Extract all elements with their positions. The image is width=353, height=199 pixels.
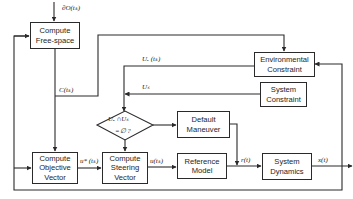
system-constraint-label: System Constraint [266,85,301,104]
reference-model-block: Reference Model [177,153,227,179]
default-maneuver-label: Default Maneuver [187,115,221,134]
environmental-constraint-label: Environmental Constraint [260,55,309,74]
compute-objective-vector-label: Compute Objective Vector [39,154,71,183]
decision-condition-line1: Uₑ ∩Uₛ [108,115,129,123]
decision-condition-line2: =∅ ? [115,127,131,135]
signal-sys-out: Uₛ [142,83,150,91]
reference-model-label: Reference Model [184,157,219,176]
signal-objective-out: u* (tₖ) [80,157,98,165]
signal-free-space-out: C(tₖ) [59,86,73,94]
system-dynamics-label: System Dynamics [270,157,303,176]
signal-env-out: Uₑ (tₖ) [142,55,160,63]
signal-steering-out: u(tₖ) [150,157,163,165]
environmental-constraint-block: Environmental Constraint [254,52,315,77]
compute-steering-vector-label: Compute Steering Vector [110,154,141,183]
signal-state-out: x(t) [318,156,328,164]
system-constraint-block: System Constraint [260,82,307,107]
compute-free-space-label: Compute Free-space [36,26,74,45]
compute-free-space-block: Compute Free-space [30,22,80,49]
block-diagram: Compute Free-space Environmental Constra… [0,0,353,199]
signal-input-top: ∂O(tₖ) [62,4,80,12]
signal-reference-out: r(t) [241,156,250,164]
default-maneuver-block: Default Maneuver [177,111,230,138]
compute-steering-vector-block: Compute Steering Vector [102,152,148,184]
system-dynamics-block: System Dynamics [262,153,312,180]
compute-objective-vector-block: Compute Objective Vector [32,152,78,184]
